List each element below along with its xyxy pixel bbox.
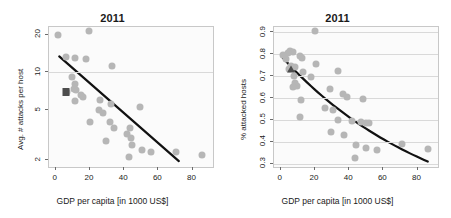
x-axis-label-right: GDP per capita [in 1000 US$] bbox=[225, 196, 450, 206]
highlight-triangle-marker bbox=[287, 65, 295, 72]
data-point bbox=[103, 138, 110, 145]
data-point bbox=[55, 32, 62, 39]
y-tick-label: 5 bbox=[26, 102, 42, 116]
gridline bbox=[274, 32, 438, 33]
data-point bbox=[365, 119, 372, 126]
data-point bbox=[71, 97, 78, 104]
data-point bbox=[322, 104, 329, 111]
x-tick-mark bbox=[417, 167, 418, 170]
y-tick-mark bbox=[270, 163, 273, 164]
data-point bbox=[63, 53, 70, 60]
x-tick-label: 20 bbox=[85, 173, 94, 182]
data-point bbox=[312, 61, 319, 68]
data-point bbox=[352, 155, 359, 162]
data-point bbox=[326, 86, 333, 93]
y-tick-mark bbox=[270, 141, 273, 142]
data-point bbox=[82, 55, 89, 62]
data-point bbox=[86, 28, 93, 35]
y-tick-text: 10 bbox=[33, 67, 42, 76]
plot-area-left bbox=[48, 26, 214, 168]
x-tick-label: 60 bbox=[153, 173, 162, 182]
y-tick-mark bbox=[270, 53, 273, 54]
data-point bbox=[348, 118, 355, 125]
panel-title-right: 2011 bbox=[225, 12, 450, 24]
y-tick-label: 20 bbox=[26, 27, 42, 41]
data-point bbox=[297, 114, 304, 121]
x-tick-mark bbox=[89, 167, 90, 170]
y-tick-mark bbox=[45, 109, 48, 110]
data-point bbox=[139, 146, 146, 153]
x-tick-label: 40 bbox=[344, 173, 353, 182]
y-tick-mark bbox=[270, 119, 273, 120]
y-tick-text: 5 bbox=[33, 107, 42, 111]
x-tick-mark bbox=[123, 167, 124, 170]
x-tick-mark bbox=[157, 167, 158, 170]
y-tick-text: 0.6 bbox=[258, 92, 267, 103]
data-point bbox=[353, 142, 360, 149]
x-tick-mark bbox=[314, 167, 315, 170]
y-tick-mark bbox=[45, 71, 48, 72]
x-tick-mark bbox=[55, 167, 56, 170]
data-point bbox=[300, 68, 307, 75]
data-point bbox=[126, 154, 133, 161]
y-tick-text: 0.4 bbox=[258, 135, 267, 146]
data-point bbox=[97, 97, 104, 104]
data-point bbox=[72, 55, 79, 62]
data-point bbox=[128, 142, 135, 149]
x-axis-label-left: GDP per capita [in 1000 US$] bbox=[0, 196, 225, 206]
y-tick-mark bbox=[45, 34, 48, 35]
figure-two-panel-scatter: 2011 Avg. # attacks per host GDP per cap… bbox=[0, 0, 451, 218]
x-tick-label: 0 bbox=[53, 173, 57, 182]
plot-area-right bbox=[273, 26, 439, 168]
y-tick-label: 0.3 bbox=[251, 156, 267, 170]
data-point bbox=[299, 54, 306, 61]
data-point bbox=[344, 94, 351, 101]
y-tick-mark bbox=[270, 31, 273, 32]
data-point bbox=[399, 141, 406, 148]
y-tick-label: 10 bbox=[26, 64, 42, 78]
y-tick-mark bbox=[270, 97, 273, 98]
x-tick-label: 80 bbox=[412, 173, 421, 182]
gridline bbox=[274, 164, 438, 165]
data-point bbox=[359, 96, 366, 103]
data-point bbox=[128, 134, 135, 141]
data-point bbox=[173, 149, 180, 156]
y-tick-label: 0.5 bbox=[251, 112, 267, 126]
data-point bbox=[107, 100, 114, 107]
data-point bbox=[312, 28, 319, 35]
panel-title-left: 2011 bbox=[0, 12, 225, 24]
data-point bbox=[99, 110, 106, 117]
data-point bbox=[87, 119, 94, 126]
y-tick-text: 0.5 bbox=[258, 113, 267, 124]
data-point bbox=[110, 124, 117, 131]
data-point bbox=[374, 146, 381, 153]
x-tick-mark bbox=[280, 167, 281, 170]
panel-avg-attacks-per-host: 2011 Avg. # attacks per host GDP per cap… bbox=[0, 0, 225, 218]
data-point bbox=[424, 145, 431, 152]
data-point bbox=[147, 149, 154, 156]
data-point bbox=[109, 62, 116, 69]
panel-pct-attacked-hosts: 2011 % attacked hosts GDP per capita [in… bbox=[225, 0, 450, 218]
x-tick-mark bbox=[348, 167, 349, 170]
y-tick-label: 0.9 bbox=[251, 24, 267, 38]
data-point bbox=[298, 97, 305, 104]
data-point bbox=[335, 116, 342, 123]
data-point bbox=[341, 132, 348, 139]
x-tick-label: 40 bbox=[119, 173, 128, 182]
data-point bbox=[363, 144, 370, 151]
y-tick-text: 0.9 bbox=[258, 26, 267, 37]
y-tick-text: 0.7 bbox=[258, 70, 267, 81]
x-tick-label: 20 bbox=[310, 173, 319, 182]
data-point bbox=[328, 129, 335, 136]
highlight-square-marker bbox=[63, 88, 70, 96]
y-tick-label: 0.7 bbox=[251, 68, 267, 82]
x-tick-mark bbox=[192, 167, 193, 170]
x-tick-mark bbox=[382, 167, 383, 170]
y-tick-text: 20 bbox=[33, 29, 42, 38]
y-tick-label: 0.4 bbox=[251, 134, 267, 148]
x-tick-label: 0 bbox=[278, 173, 282, 182]
y-tick-label: 0.6 bbox=[251, 90, 267, 104]
data-point bbox=[137, 103, 144, 110]
data-point bbox=[80, 93, 87, 100]
y-tick-text: 0.3 bbox=[258, 157, 267, 168]
